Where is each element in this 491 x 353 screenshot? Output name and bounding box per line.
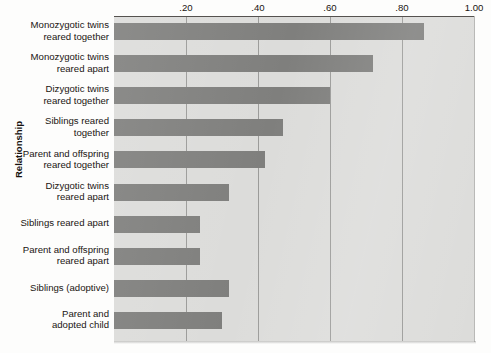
x-axis-tick-labels: .20.40.60.801.00 [0, 2, 491, 16]
category-label: Siblings reared apart [8, 217, 109, 228]
category-label: Dizygotic twins reared together [8, 83, 109, 106]
bar [114, 248, 200, 265]
bar [114, 312, 222, 329]
bar [114, 55, 373, 72]
x-tick-label: .60 [323, 2, 336, 13]
x-tick-label: .20 [179, 2, 192, 13]
category-label: Siblings reared together [8, 115, 109, 138]
bar [114, 184, 229, 201]
bar [114, 280, 229, 297]
bar [114, 119, 283, 136]
x-tick-label: 1.00 [465, 2, 484, 13]
category-label: Parent and adopted child [8, 308, 109, 331]
bar [114, 23, 424, 40]
category-label: Dizygotic twins reared apart [8, 180, 109, 203]
x-axis-rule [114, 16, 474, 17]
category-label: Siblings (adoptive) [8, 282, 109, 293]
bar [114, 151, 265, 168]
category-label: Parent and offspring reared apart [8, 244, 109, 267]
x-tick-label: .80 [395, 2, 408, 13]
bar [114, 87, 330, 104]
gridline [402, 17, 403, 341]
category-label: Monozygotic twins reared apart [8, 51, 109, 74]
plot-right-border [474, 16, 475, 342]
plot-area [114, 16, 474, 341]
category-label: Monozygotic twins reared together [8, 19, 109, 42]
category-label-column: Monozygotic twins reared togetherMonozyg… [8, 22, 109, 342]
plot-bottom-shadow [114, 341, 476, 344]
category-label: Parent and offspring reared together [8, 148, 109, 171]
correlation-bar-chart: Relationship Monozygotic twins reared to… [0, 0, 491, 353]
bar [114, 216, 200, 233]
x-tick-label: .40 [251, 2, 264, 13]
